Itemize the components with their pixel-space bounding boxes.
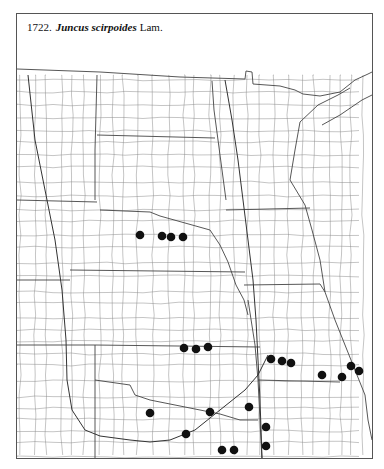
occurrence-dot [204,343,213,352]
occurrence-dot [267,355,276,364]
occurrence-dot [230,446,239,455]
occurrence-dot [347,362,356,371]
occurrence-dot [182,430,191,439]
distribution-map [0,0,384,469]
occurrence-dot [158,232,167,241]
occurrence-dot [146,409,155,418]
occurrence-dot [167,233,176,242]
document-page: 1722.Juncus scirpoidesLam. [0,0,384,469]
occurrence-dot [262,442,271,451]
occurrence-dot [245,403,254,412]
occurrence-dot [278,357,287,366]
county-grid [17,75,364,458]
occurrence-dot [180,344,189,353]
occurrence-dot [179,233,188,242]
occurrence-dot [218,446,227,455]
occurrence-dot [136,231,145,240]
occurrence-dot [338,373,347,382]
physiographic-lines [28,75,268,458]
occurrence-dot [287,359,296,368]
occurrence-dot [318,371,327,380]
occurrence-dot [262,423,271,432]
occurrence-dot [192,345,201,354]
occurrence-dot [206,408,215,417]
occurrence-dot [355,367,364,376]
